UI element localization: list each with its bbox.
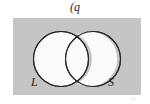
figure-container: (q L S o <box>0 0 150 104</box>
venn-diagram <box>0 0 150 104</box>
venn-label-S: S <box>108 76 114 88</box>
footer-mark: o <box>131 95 140 103</box>
venn-label-L: L <box>31 76 38 88</box>
